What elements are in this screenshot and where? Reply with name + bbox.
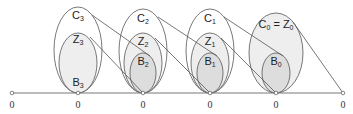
zero-label: 0 [341, 99, 346, 110]
zero-point [10, 91, 14, 95]
label-z1: Z1 [205, 36, 216, 48]
label-c0-equals-z0: C0 = Z0 [258, 19, 293, 31]
zero-point [141, 91, 145, 95]
zero-point [274, 91, 278, 95]
label-c1: C1 [204, 13, 216, 25]
label-z2: Z2 [138, 36, 149, 48]
diagram-svg [0, 0, 353, 114]
zero-label: 0 [208, 99, 213, 110]
zero-label: 0 [274, 99, 279, 110]
label-c3: C3 [72, 10, 84, 22]
zero-label: 0 [141, 99, 146, 110]
zero-label: 0 [76, 99, 81, 110]
chain-complex-diagram: C3 Z3 B3 C2 Z2 B2 C1 Z1 B1 C0 = Z0 B0 0 … [0, 0, 353, 114]
label-b0: B0 [270, 56, 281, 68]
label-b2: B2 [137, 56, 148, 68]
zero-point [208, 91, 212, 95]
zero-point [76, 91, 80, 95]
label-z3: Z3 [73, 34, 84, 46]
label-c2: C2 [137, 13, 149, 25]
label-b3: B3 [72, 77, 83, 89]
zero-point [341, 91, 345, 95]
zero-label: 0 [10, 99, 15, 110]
label-b1: B1 [204, 56, 215, 68]
